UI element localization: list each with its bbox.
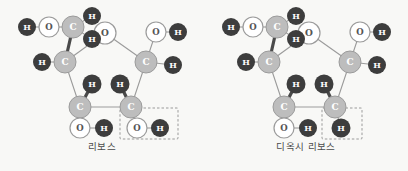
atom-c4-hydrogen-label: H — [242, 57, 250, 67]
atom-c2-hydrogen-label: H — [116, 79, 124, 89]
atom-c3-hydroxyl-h-label: H — [304, 123, 312, 133]
ribose-atoms: C C C C C O O O — [18, 7, 187, 138]
atom-c1-hydroxyl-h-label: H — [378, 27, 386, 37]
atom-ring-oxygen-label: O — [305, 28, 313, 38]
atom-c5-hydrogen-up-label: H — [88, 11, 96, 21]
atom-c2-hydrogen-label: H — [320, 79, 328, 89]
atom-c2-hydrogen-boxed-label: H — [337, 123, 345, 133]
atom-c1-oxygen-label: O — [356, 27, 364, 37]
atom-c3-hydrogen-label: H — [88, 79, 96, 89]
ribose-panel: C C C C C O O O — [0, 0, 204, 171]
atom-c1-prime-label: C — [142, 57, 149, 67]
atom-c3-prime-label: C — [280, 102, 287, 112]
atom-c2-oxygen-boxed-label: O — [133, 123, 141, 133]
deoxyribose-atoms: C C C C C O O O — [222, 7, 391, 138]
atom-ring-oxygen-label: O — [101, 28, 109, 38]
atom-c4-prime-label: C — [61, 57, 68, 67]
atom-c3-prime-label: C — [76, 102, 83, 112]
atom-c2-prime-label: C — [127, 102, 134, 112]
atom-c3-hydroxyl-h-label: H — [100, 123, 108, 133]
atom-c5-oxygen-label: O — [45, 22, 53, 32]
atom-c5-prime-label: C — [273, 22, 280, 32]
atom-c3-hydrogen-label: H — [292, 79, 300, 89]
atom-c5-prime-label: C — [69, 22, 76, 32]
atom-c5-oxygen-label: O — [249, 22, 257, 32]
ribose-deoxyribose-comparison-figure: C C C C C O O O — [0, 0, 408, 171]
atom-c5-hydrogen-down-label: H — [88, 34, 96, 44]
atom-c4-prime-label: C — [265, 57, 272, 67]
atom-c3-oxygen-label: O — [280, 123, 288, 133]
atom-c5-hydroxyl-h-label: H — [23, 22, 31, 32]
deoxyribose-panel: C C C C C O O O — [204, 0, 408, 171]
deoxyribose-caption: 디옥시 리보스 — [204, 141, 408, 153]
atom-c2-prime-label: C — [331, 102, 338, 112]
atom-c2-hydroxyl-h-boxed-label: H — [156, 123, 164, 133]
atom-c1-hydroxyl-h-label: H — [174, 27, 182, 37]
ribose-caption: 리보스 — [0, 141, 204, 153]
atom-c5-hydrogen-down-label: H — [292, 34, 300, 44]
atom-c4-hydrogen-label: H — [38, 57, 46, 67]
atom-c1-oxygen-label: O — [152, 27, 160, 37]
atom-c5-hydroxyl-h-label: H — [227, 22, 235, 32]
atom-c1-hydrogen-label: H — [373, 60, 381, 70]
atom-c1-prime-label: C — [346, 57, 353, 67]
atom-c5-hydrogen-up-label: H — [292, 11, 300, 21]
atom-c3-oxygen-label: O — [76, 123, 84, 133]
atom-c1-hydrogen-label: H — [169, 60, 177, 70]
